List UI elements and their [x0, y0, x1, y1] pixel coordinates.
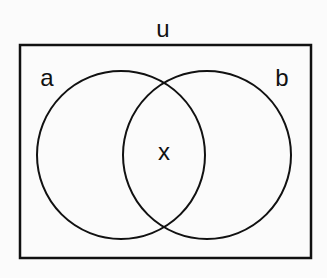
set-a-circle [37, 71, 205, 239]
set-a-label: a [40, 64, 54, 91]
set-b-label: b [275, 64, 288, 91]
universe-label: u [156, 15, 169, 42]
venn-diagram: u a b x [0, 0, 327, 278]
set-b-circle [123, 71, 291, 239]
intersection-label: x [158, 138, 170, 165]
